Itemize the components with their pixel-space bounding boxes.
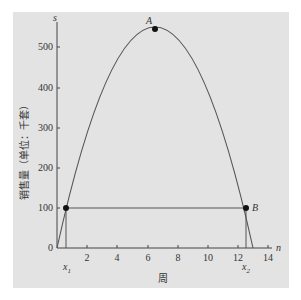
point-b — [243, 205, 249, 211]
svg-text:2: 2 — [85, 252, 90, 263]
x-axis-title: 周 — [158, 273, 168, 284]
svg-text:200: 200 — [38, 162, 53, 173]
svg-text:8: 8 — [176, 252, 181, 263]
chart-svg: s n 0 100 200 300 400 500 2 4 6 8 10 12 … — [0, 0, 301, 300]
svg-text:6: 6 — [146, 252, 151, 263]
svg-text:500: 500 — [38, 41, 53, 52]
svg-text:0: 0 — [48, 242, 53, 253]
point-a-label: A — [145, 15, 153, 26]
x-axis-var: n — [276, 242, 281, 253]
svg-text:14: 14 — [263, 252, 273, 263]
svg-text:300: 300 — [38, 122, 53, 133]
point-b-label: B — [252, 202, 258, 213]
x2-label: x2 — [241, 261, 250, 275]
point-a — [152, 26, 158, 32]
svg-text:100: 100 — [38, 202, 53, 213]
x1-label: x1 — [62, 261, 71, 275]
svg-text:10: 10 — [203, 252, 213, 263]
sales-curve — [57, 27, 253, 248]
svg-text:4: 4 — [115, 252, 120, 263]
point-x1-level — [63, 205, 69, 211]
y-axis-var: s — [53, 12, 57, 23]
y-axis-title: 销售量（单位：千套） — [18, 100, 30, 200]
svg-text:400: 400 — [38, 82, 53, 93]
